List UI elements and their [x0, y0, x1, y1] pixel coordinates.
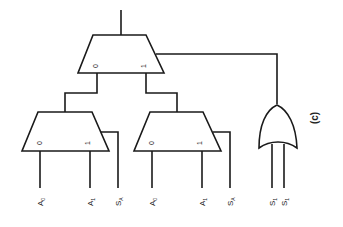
right-mux-input-1-label: 1: [196, 141, 203, 145]
svg-text:A1: A1: [86, 198, 96, 206]
svg-text:SA: SA: [114, 197, 124, 206]
svg-text:A1: A1: [198, 198, 208, 206]
svg-text:S1: S1: [268, 198, 278, 206]
signal-label-a1-right: A1: [198, 198, 208, 206]
signal-label-a1-left: A1: [86, 198, 96, 206]
top-mux-input-1-label: 1: [140, 64, 147, 68]
left-mux-input-0-label: 0: [36, 141, 43, 145]
signal-label-a0-right: A0: [148, 198, 158, 206]
or-gate: [259, 105, 297, 148]
mux-diagram: 0 1 0 1 0 1 (c) A0 A1: [0, 0, 343, 227]
signal-label-sa-left: SA: [114, 197, 124, 206]
right-mux-output-wire: [146, 73, 177, 112]
top-mux-input-0-label: 0: [92, 64, 99, 68]
signal-label-s1-b: S1: [280, 198, 290, 206]
signal-label-a0-left: A0: [36, 198, 46, 206]
svg-text:A0: A0: [36, 198, 46, 206]
svg-text:S1: S1: [280, 198, 290, 206]
or-to-top-select-wire: [156, 54, 277, 104]
left-mux-input-1-label: 1: [84, 141, 91, 145]
signal-label-sa-right: SA: [226, 197, 236, 206]
top-mux: [78, 35, 164, 73]
diagram-canvas: 0 1 0 1 0 1 (c) A0 A1: [0, 0, 343, 227]
signal-label-s1-a: S1: [268, 198, 278, 206]
left-mux-output-wire: [65, 73, 97, 112]
svg-text:SA: SA: [226, 197, 236, 206]
svg-text:A0: A0: [148, 198, 158, 206]
right-mux-input-0-label: 0: [148, 141, 155, 145]
figure-caption: (c): [309, 112, 320, 124]
